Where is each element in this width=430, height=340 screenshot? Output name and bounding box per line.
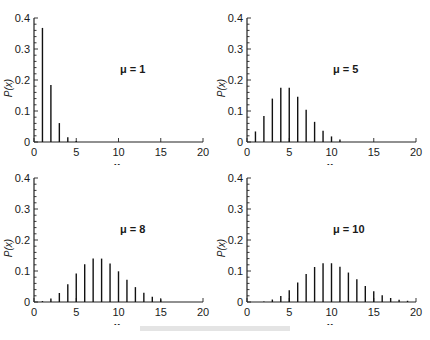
- x-tick-label: 20: [197, 306, 209, 318]
- y-tick-label: 0.1: [228, 105, 243, 117]
- y-tick-label: 0.2: [228, 234, 243, 246]
- x-tick-label: 5: [73, 146, 79, 158]
- figure-caption-smudge: [140, 326, 290, 331]
- axes: 00.10.20.30.405101520xP(x)μ = 5: [216, 12, 422, 165]
- bars: [264, 263, 408, 302]
- bars: [42, 28, 76, 142]
- panel-mu-5: 00.10.20.30.405101520xP(x)μ = 5: [213, 0, 430, 165]
- x-tick-label: 20: [410, 146, 422, 158]
- y-tick-label: 0.3: [15, 203, 30, 215]
- axes: 00.10.20.30.405101520xP(x)μ = 8: [3, 172, 209, 325]
- y-tick-label: 0.4: [15, 172, 30, 184]
- x-tick-label: 10: [112, 306, 124, 318]
- chart-mu-1: 00.10.20.30.405101520xP(x)μ = 1: [0, 0, 215, 165]
- x-tick-label: 0: [31, 146, 37, 158]
- y-tick-label: 0.3: [15, 43, 30, 55]
- y-tick-label: 0: [237, 296, 243, 308]
- y-tick-label: 0.2: [15, 74, 30, 86]
- panel-mu-1: 00.10.20.30.405101520xP(x)μ = 1: [0, 0, 215, 165]
- y-tick-label: 0.3: [228, 43, 243, 55]
- x-tick-label: 15: [368, 306, 380, 318]
- y-tick-label: 0.1: [15, 265, 30, 277]
- x-tick-label: 15: [155, 306, 167, 318]
- y-tick-label: 0.1: [228, 265, 243, 277]
- x-axis-label: x: [325, 320, 333, 325]
- bars: [42, 259, 160, 302]
- x-tick-label: 0: [244, 146, 250, 158]
- x-tick-label: 10: [112, 146, 124, 158]
- x-tick-label: 10: [325, 146, 337, 158]
- mu-annotation: μ = 5: [333, 63, 358, 75]
- x-tick-label: 5: [286, 146, 292, 158]
- x-tick-label: 15: [368, 146, 380, 158]
- x-tick-label: 10: [325, 306, 337, 318]
- y-tick-label: 0.4: [228, 172, 243, 184]
- mu-annotation: μ = 8: [120, 223, 145, 235]
- panel-mu-8: 00.10.20.30.405101520xP(x)μ = 8: [0, 160, 215, 325]
- chart-mu-5: 00.10.20.30.405101520xP(x)μ = 5: [213, 0, 430, 165]
- y-tick-label: 0.4: [228, 12, 243, 24]
- x-tick-label: 15: [155, 146, 167, 158]
- x-tick-label: 0: [244, 306, 250, 318]
- y-tick-label: 0.2: [15, 234, 30, 246]
- x-axis-label: x: [112, 320, 120, 325]
- y-tick-label: 0: [24, 136, 30, 148]
- bars: [255, 88, 340, 142]
- x-tick-label: 5: [73, 306, 79, 318]
- y-tick-label: 0: [24, 296, 30, 308]
- mu-annotation: μ = 1: [120, 63, 145, 75]
- y-axis-label: P(x): [3, 239, 14, 257]
- y-tick-label: 0.4: [15, 12, 30, 24]
- x-tick-label: 0: [31, 306, 37, 318]
- y-axis-label: P(x): [216, 239, 227, 257]
- axes: 00.10.20.30.405101520xP(x)μ = 10: [216, 172, 422, 325]
- y-tick-label: 0.2: [228, 74, 243, 86]
- x-tick-label: 20: [197, 146, 209, 158]
- axes: 00.10.20.30.405101520xP(x)μ = 1: [3, 12, 209, 165]
- x-tick-label: 20: [410, 306, 422, 318]
- y-axis-label: P(x): [216, 79, 227, 97]
- mu-annotation: μ = 10: [333, 223, 365, 235]
- chart-mu-8: 00.10.20.30.405101520xP(x)μ = 8: [0, 160, 215, 325]
- y-tick-label: 0: [237, 136, 243, 148]
- y-tick-label: 0.3: [228, 203, 243, 215]
- y-axis-label: P(x): [3, 79, 14, 97]
- panel-mu-10: 00.10.20.30.405101520xP(x)μ = 10: [213, 160, 430, 325]
- y-tick-label: 0.1: [15, 105, 30, 117]
- chart-mu-10: 00.10.20.30.405101520xP(x)μ = 10: [213, 160, 430, 325]
- x-tick-label: 5: [286, 306, 292, 318]
